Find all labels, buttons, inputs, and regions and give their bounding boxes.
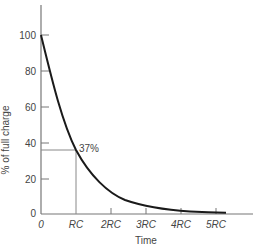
x-tick-label: 4RC (171, 219, 192, 230)
discharge-chart: 100 80 60 40 20 0 0 RC 2RC 3RC 4RC 5RC T… (0, 0, 253, 247)
x-tick-label: 0 (38, 219, 44, 230)
y-axis-title: % of full charge (0, 105, 11, 174)
y-tick-label: 80 (25, 66, 37, 77)
x-tick-label: RC (69, 219, 84, 230)
y-tick-label: 40 (25, 138, 37, 149)
y-tick-label: 60 (25, 102, 37, 113)
x-axis-title: Time (135, 235, 157, 246)
y-tick-label: 100 (19, 30, 36, 41)
y-ticks (41, 35, 49, 179)
x-tick-label: 3RC (136, 219, 157, 230)
y-tick-label: 20 (25, 174, 37, 185)
x-tick-label: 5RC (206, 219, 227, 230)
annotation-37-percent: 37% (79, 143, 99, 154)
discharge-curve (41, 35, 226, 213)
y-tick-label: 0 (30, 208, 36, 219)
x-tick-label: 2RC (100, 219, 122, 230)
